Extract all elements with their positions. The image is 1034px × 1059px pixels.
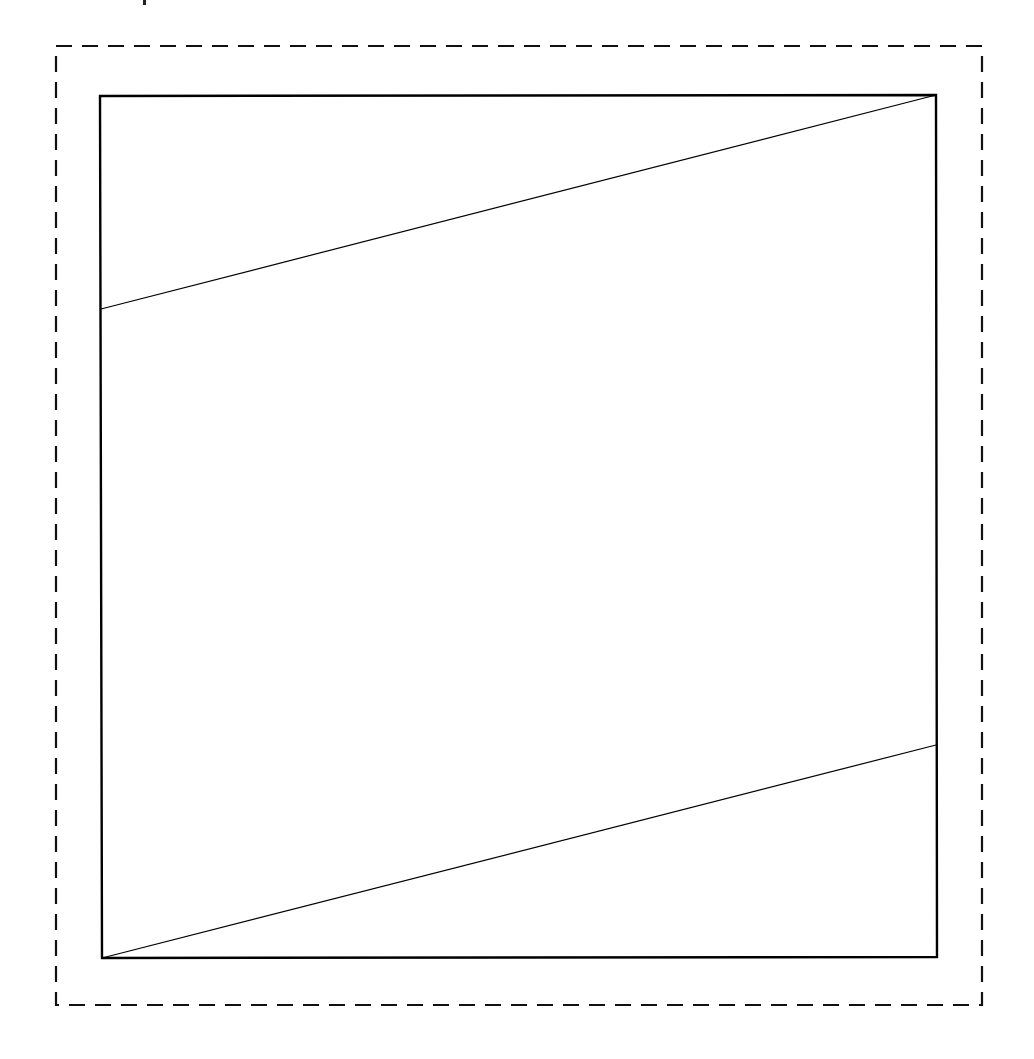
lower-diagonal-line <box>102 745 936 958</box>
geometry-diagram <box>0 0 1034 1059</box>
square-outline <box>100 95 937 958</box>
upper-diagonal-line <box>101 95 936 309</box>
outer-dashed-frame <box>56 46 982 1005</box>
